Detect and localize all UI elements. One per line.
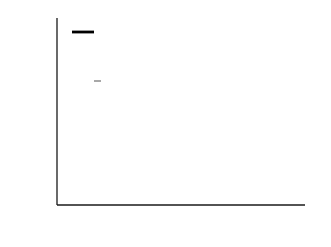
fossil-fuel-emission-chart [0, 0, 331, 247]
plot-background [57, 18, 305, 205]
chart-container [0, 0, 331, 247]
